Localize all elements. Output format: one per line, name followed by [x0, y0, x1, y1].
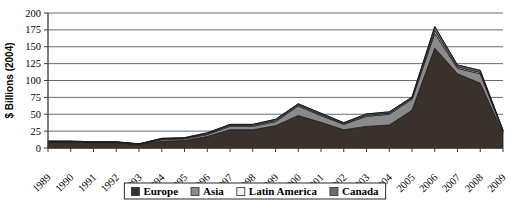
- legend-swatch-europe: [131, 188, 139, 196]
- x-tick-label: 2007: [440, 172, 463, 195]
- stacked-area-chart: 0255075100125150175200198919901991199219…: [0, 0, 510, 211]
- legend-swatch-canada: [330, 188, 338, 196]
- x-tick-label: 2009: [485, 172, 508, 195]
- series-area-europe: [48, 48, 503, 148]
- y-tick-label: 100: [25, 75, 41, 86]
- x-tick-label: 1992: [99, 172, 122, 195]
- x-tick-label: 2005: [394, 172, 417, 195]
- y-axis-title: $ Billions (2004): [4, 42, 15, 118]
- x-tick-label: 1991: [76, 172, 99, 195]
- series-areas: [48, 27, 503, 149]
- legend-swatch-latin-america: [237, 188, 245, 196]
- y-tick-label: 25: [31, 126, 42, 137]
- legend-swatch-asia: [191, 188, 199, 196]
- legend-label-latin-america: Latin America: [249, 185, 318, 197]
- y-tick-label: 50: [31, 109, 42, 120]
- x-tick-label: 2006: [417, 172, 440, 195]
- legend-label-canada: Canada: [342, 185, 379, 197]
- y-tick-label: 175: [25, 24, 41, 35]
- legend-label-europe: Europe: [143, 185, 178, 197]
- x-tick-label: 1990: [53, 172, 76, 195]
- y-tick-label: 0: [36, 143, 41, 154]
- chart-legend: EuropeAsiaLatin AmericaCanada: [124, 183, 385, 199]
- x-tick-label: 1989: [30, 172, 53, 195]
- chart-container: 0255075100125150175200198919901991199219…: [0, 0, 510, 211]
- legend-label-asia: Asia: [203, 185, 224, 197]
- y-tick-label: 200: [25, 8, 41, 19]
- y-tick-label: 75: [31, 92, 42, 103]
- x-tick-label: 2008: [463, 172, 486, 195]
- y-tick-label: 125: [25, 58, 41, 69]
- y-tick-label: 150: [25, 41, 41, 52]
- y-axis-ticks: 0255075100125150175200: [25, 8, 48, 154]
